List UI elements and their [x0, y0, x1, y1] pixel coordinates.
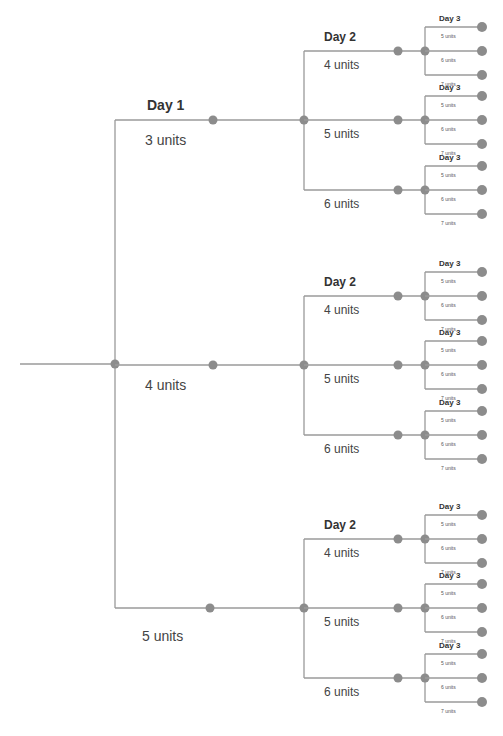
- day1-node: [206, 604, 215, 613]
- leaf-node: [477, 406, 487, 416]
- day3-header: Day 3: [439, 153, 460, 162]
- leaf-node: [477, 22, 487, 32]
- day3-branch-label: 7 units: [441, 220, 456, 226]
- day2-header: Day 2: [324, 518, 356, 532]
- day2-node: [394, 361, 403, 370]
- day2-node: [394, 186, 403, 195]
- day2-branch-label: 6 units: [324, 197, 359, 211]
- day3-branch-label: 6 units: [441, 126, 456, 132]
- day3-branch-label: 5 units: [441, 590, 456, 596]
- leaf-node: [477, 336, 487, 346]
- day3-header: Day 3: [439, 83, 460, 92]
- leaf-node: [477, 161, 487, 171]
- day3-branch-label: 5 units: [441, 417, 456, 423]
- day3-branch-label: 6 units: [441, 684, 456, 690]
- day3-branch-label: 5 units: [441, 347, 456, 353]
- day3-header: Day 3: [439, 571, 460, 580]
- leaf-node: [477, 267, 487, 277]
- leaf-node: [477, 46, 487, 56]
- leaf-node: [477, 384, 487, 394]
- leaf-node: [477, 454, 487, 464]
- day3-header: Day 3: [439, 398, 460, 407]
- day3-header: Day 3: [439, 328, 460, 337]
- day1-header: Day 1: [147, 97, 184, 113]
- leaf-node: [477, 649, 487, 659]
- day3-branch-label: 6 units: [441, 545, 456, 551]
- root-node: [111, 360, 120, 369]
- leaf-node: [477, 185, 487, 195]
- day3-branch-label: 6 units: [441, 196, 456, 202]
- day3-branch-label: 7 units: [441, 708, 456, 714]
- leaf-node: [477, 697, 487, 707]
- day2-branch-label: 4 units: [324, 546, 359, 560]
- leaf-node: [477, 534, 487, 544]
- leaf-node: [477, 70, 487, 80]
- day3-branch-label: 5 units: [441, 278, 456, 284]
- leaf-node: [477, 673, 487, 683]
- day3-branch-label: 5 units: [441, 521, 456, 527]
- leaf-node: [477, 603, 487, 613]
- day2-branch-label: 6 units: [324, 442, 359, 456]
- day1-branch-label: 3 units: [145, 132, 186, 148]
- day2-branch-label: 6 units: [324, 685, 359, 699]
- leaf-node: [477, 579, 487, 589]
- day2-node: [394, 535, 403, 544]
- day2-branch-label: 4 units: [324, 58, 359, 72]
- day1-branch-label: 4 units: [145, 377, 186, 393]
- day3-branch-label: 5 units: [441, 33, 456, 39]
- day1-node: [209, 116, 218, 125]
- day3-branch-label: 6 units: [441, 614, 456, 620]
- day2-node: [394, 116, 403, 125]
- day2-branch-label: 5 units: [324, 372, 359, 386]
- day3-branch-label: 5 units: [441, 660, 456, 666]
- day3-branch-label: 5 units: [441, 102, 456, 108]
- day2-node: [394, 604, 403, 613]
- day2-branch-label: 4 units: [324, 303, 359, 317]
- day3-header: Day 3: [439, 641, 460, 650]
- decision-tree-lines: [0, 0, 503, 736]
- leaf-node: [477, 91, 487, 101]
- day3-branch-label: 6 units: [441, 371, 456, 377]
- day3-header: Day 3: [439, 14, 460, 23]
- day3-branch-label: 6 units: [441, 57, 456, 63]
- leaf-node: [477, 139, 487, 149]
- day2-header: Day 2: [324, 30, 356, 44]
- leaf-node: [477, 510, 487, 520]
- day3-branch-label: 6 units: [441, 302, 456, 308]
- day2-header: Day 2: [324, 275, 356, 289]
- day1-node: [209, 361, 218, 370]
- day1-branch-label: 5 units: [142, 628, 183, 644]
- day2-node: [394, 674, 403, 683]
- leaf-node: [477, 115, 487, 125]
- leaf-node: [477, 209, 487, 219]
- leaf-node: [477, 627, 487, 637]
- leaf-node: [477, 558, 487, 568]
- day3-header: Day 3: [439, 259, 460, 268]
- day3-header: Day 3: [439, 502, 460, 511]
- day2-branch-label: 5 units: [324, 615, 359, 629]
- day2-node: [394, 431, 403, 440]
- leaf-node: [477, 360, 487, 370]
- day2-node: [394, 292, 403, 301]
- day3-branch-label: 7 units: [441, 465, 456, 471]
- day3-branch-label: 5 units: [441, 172, 456, 178]
- day3-branch-label: 6 units: [441, 441, 456, 447]
- day2-branch-label: 5 units: [324, 127, 359, 141]
- leaf-node: [477, 315, 487, 325]
- leaf-node: [477, 430, 487, 440]
- day2-node: [394, 47, 403, 56]
- leaf-node: [477, 291, 487, 301]
